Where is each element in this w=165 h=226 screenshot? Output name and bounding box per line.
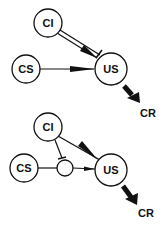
us-cr-arrow-shaft [124, 86, 132, 95]
gate-node [57, 160, 73, 176]
cs-us-arrowhead-icon [70, 66, 95, 72]
cs-label: CS [16, 162, 31, 174]
us-cr-arrow-shaft [123, 186, 131, 197]
diagram-canvas: CI CS US CR CI CS US CR [0, 0, 165, 226]
cr-label: CR [138, 207, 154, 219]
ci-us-arrowhead-icon [78, 141, 98, 160]
ci-us-inhibitory-line [60, 30, 100, 55]
diagram-bottom: CI CS US CR [10, 113, 154, 219]
ci-label: CI [43, 17, 54, 29]
diagram-top: CI CS US CR [12, 9, 156, 119]
us-label: US [103, 63, 118, 75]
us-label: US [103, 164, 118, 176]
cs-label: CS [18, 63, 33, 75]
gate-us-arrowhead-icon [84, 167, 95, 172]
inhibitory-bar-icon [58, 157, 66, 159]
cr-label: CR [140, 107, 156, 119]
ci-gate-line [55, 140, 62, 158]
ci-label: CI [43, 121, 54, 133]
